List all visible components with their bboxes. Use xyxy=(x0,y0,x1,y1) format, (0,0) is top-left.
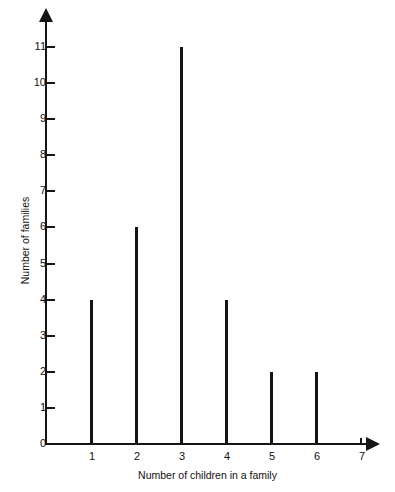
y-axis-tick-label: 9 xyxy=(16,113,46,124)
y-axis-tick xyxy=(47,407,55,409)
data-bar xyxy=(315,372,318,444)
y-axis-tick xyxy=(47,154,55,156)
y-axis-tick-label: 1 xyxy=(16,402,46,413)
y-axis-tick-label: 3 xyxy=(16,330,46,341)
y-axis-tick-label: 10 xyxy=(16,77,46,88)
x-axis-tick-label: 2 xyxy=(125,450,149,462)
x-axis-tick xyxy=(360,438,362,444)
y-axis-tick-label: 8 xyxy=(16,149,46,160)
y-axis-title: Number of families xyxy=(20,161,31,321)
data-bar xyxy=(180,47,183,444)
y-axis-tick xyxy=(47,82,55,84)
x-axis-tick-label: 3 xyxy=(170,450,194,462)
y-axis-tick-label: 0 xyxy=(16,438,46,449)
y-axis-tick xyxy=(47,46,55,48)
data-bar xyxy=(135,227,138,444)
plot-area: 01234567891011 1234567 Number of familie… xyxy=(0,0,395,492)
data-bar xyxy=(90,300,93,444)
x-axis-tick-label: 5 xyxy=(260,450,284,462)
data-bar xyxy=(270,372,273,444)
x-axis-tick-label: 4 xyxy=(215,450,239,462)
y-axis-tick-label: 11 xyxy=(16,41,46,52)
y-axis-tick xyxy=(47,190,55,192)
y-axis-tick xyxy=(47,299,55,301)
frequency-chart: 01234567891011 1234567 Number of familie… xyxy=(0,0,395,492)
y-axis-tick xyxy=(47,118,55,120)
y-axis-tick xyxy=(47,226,55,228)
x-axis-arrow-icon xyxy=(366,437,380,451)
y-axis-tick xyxy=(47,371,55,373)
y-axis-arrow-icon xyxy=(39,8,53,22)
x-axis-line xyxy=(45,443,368,445)
y-axis-tick-label: 2 xyxy=(16,366,46,377)
x-axis-tick-label: 7 xyxy=(350,450,374,462)
y-axis-tick xyxy=(47,335,55,337)
x-axis-tick-label: 6 xyxy=(305,450,329,462)
x-axis-tick-label: 1 xyxy=(80,450,104,462)
y-axis-tick xyxy=(47,263,55,265)
data-bar xyxy=(225,300,228,444)
x-axis-title: Number of children in a family xyxy=(45,469,370,481)
